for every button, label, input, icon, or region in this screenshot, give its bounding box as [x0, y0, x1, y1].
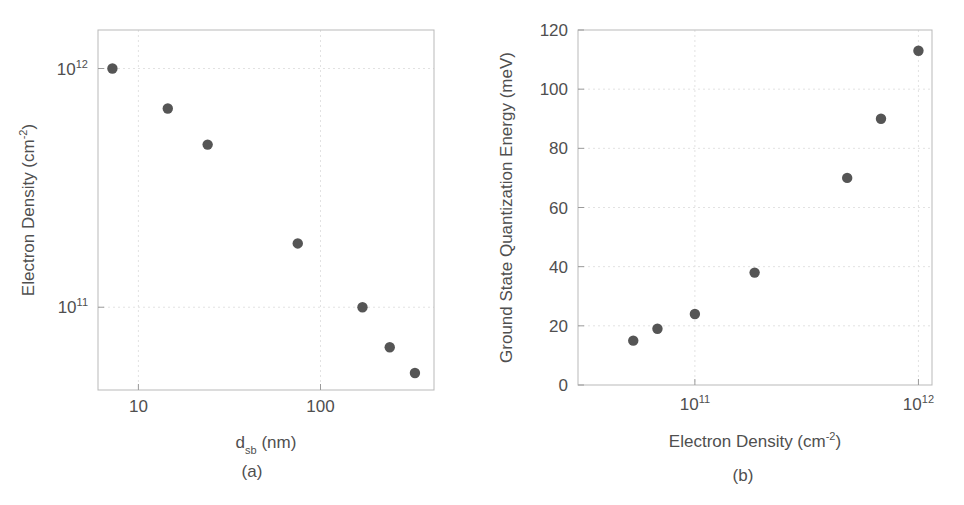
y-axis-title: Ground State Quantization Energy (meV) [497, 52, 516, 363]
y-tick-label: 120 [540, 21, 568, 40]
plot-frame [98, 30, 434, 390]
scatter-plot-b: 02040608010012010111012Ground State Quan… [482, 0, 964, 505]
x-axis-title: Electron Density (cm-2) [669, 430, 841, 451]
y-tick-label: 1012 [57, 58, 88, 79]
data-point [163, 103, 173, 113]
figure-container: 1010010111012Electron Density (cm-2)dsb … [0, 0, 964, 505]
data-point [107, 63, 117, 73]
y-tick-label: 100 [540, 80, 568, 99]
x-axis-title: dsb (nm) [236, 433, 297, 456]
y-tick-label: 20 [549, 317, 568, 336]
data-point [628, 335, 638, 345]
x-tick-label: 10 [129, 397, 148, 416]
y-axis-title: Electron Density (cm-2) [17, 124, 38, 296]
y-tick-label: 80 [549, 139, 568, 158]
data-point [652, 324, 662, 334]
x-tick-label: 1011 [680, 393, 710, 414]
data-point [385, 342, 395, 352]
data-point [690, 309, 700, 319]
data-point [913, 46, 923, 56]
panel-b: 02040608010012010111012Ground State Quan… [482, 0, 964, 505]
data-point [202, 139, 212, 149]
y-tick-label: 1011 [58, 296, 88, 317]
data-point [749, 267, 759, 277]
y-tick-label: 60 [549, 199, 568, 218]
data-point [293, 238, 303, 248]
y-tick-label: 0 [559, 376, 568, 395]
panel-caption-a: (a) [242, 462, 263, 481]
data-point [410, 368, 420, 378]
data-point [357, 302, 367, 312]
x-tick-label: 1012 [903, 393, 934, 414]
scatter-plot-a: 1010010111012Electron Density (cm-2)dsb … [0, 0, 482, 505]
y-tick-label: 40 [549, 258, 568, 277]
panel-a: 1010010111012Electron Density (cm-2)dsb … [0, 0, 482, 505]
x-tick-label: 100 [306, 397, 334, 416]
panel-caption-b: (b) [733, 466, 754, 485]
data-point [842, 173, 852, 183]
data-point [876, 114, 886, 124]
